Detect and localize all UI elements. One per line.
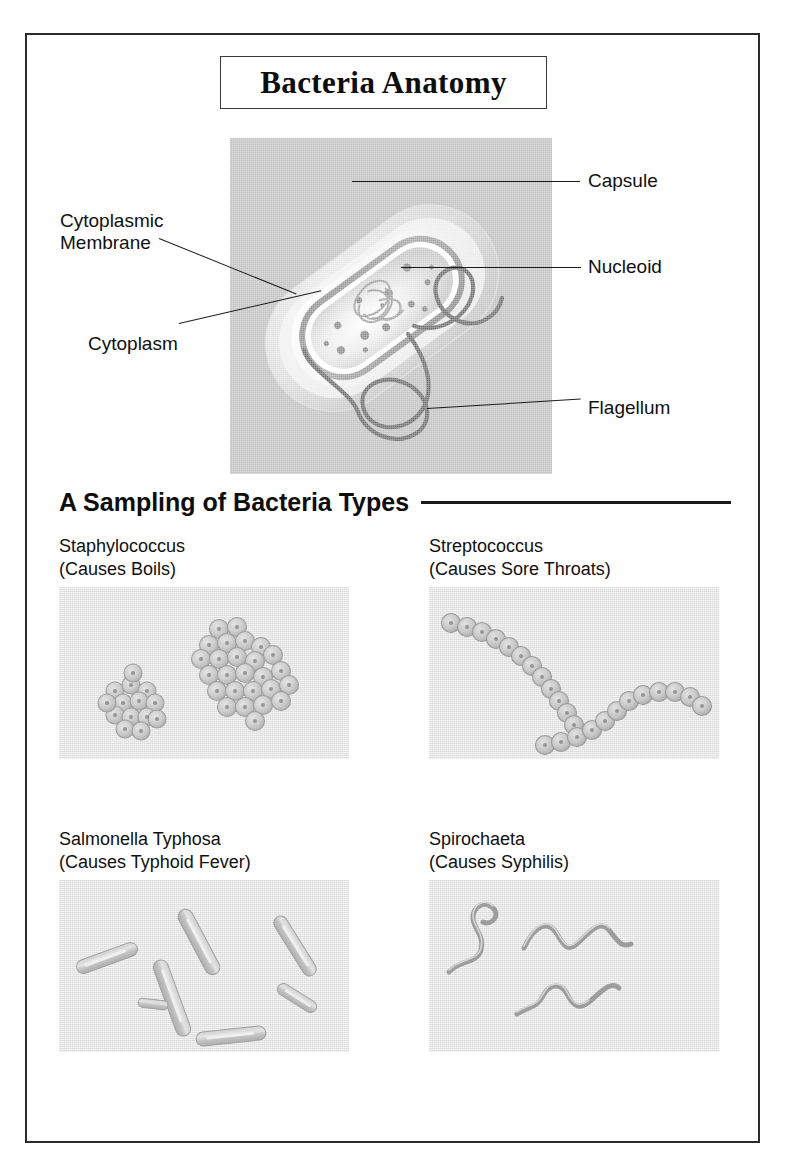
strep-chain-upper — [442, 614, 584, 735]
specimen-staphylococcus: Staphylococcus (Causes Boils) — [59, 535, 349, 759]
label-cytoplasm: Cytoplasm — [88, 333, 178, 355]
section-heading: A Sampling of Bacteria Types — [59, 485, 731, 519]
halftone-texture — [230, 138, 552, 474]
specimen-image-spirochaeta — [429, 880, 719, 1052]
specimen-spirochaeta: Spirochaeta (Causes Syphilis) — [429, 828, 719, 1052]
specimen-streptococcus: Streptococcus (Causes Sore Throats) [dat… — [429, 535, 719, 759]
specimen-caption-spirochaeta: Spirochaeta (Causes Syphilis) — [429, 828, 719, 874]
specimen-caption-streptococcus: Streptococcus (Causes Sore Throats) — [429, 535, 719, 581]
title-box: Bacteria Anatomy — [220, 56, 547, 109]
leader-line-capsule — [352, 181, 580, 182]
specimen-image-staphylococcus: [data-name="staph-cluster-small"] circle… — [59, 587, 349, 759]
specimen-image-salmonella-typhosa — [59, 880, 349, 1052]
salmonella-rods — [75, 907, 319, 1047]
leader-line-nucleoid — [401, 267, 581, 268]
section-title: A Sampling of Bacteria Types — [59, 488, 409, 517]
label-flagellum: Flagellum — [588, 397, 670, 419]
section-rule — [421, 501, 731, 504]
specimen-caption-staphylococcus: Staphylococcus (Causes Boils) — [59, 535, 349, 581]
specimen-caption-salmonella-typhosa: Salmonella Typhosa (Causes Typhoid Fever… — [59, 828, 349, 874]
page-border: Bacteria Anatomy — [25, 33, 760, 1143]
bacteria-anatomy-illustration — [230, 138, 552, 474]
specimen-salmonella-typhosa: Salmonella Typhosa (Causes Typhoid Fever… — [59, 828, 349, 1052]
specimen-image-streptococcus: [data-name="strep-chain-upper"] circle, … — [429, 587, 719, 759]
label-nucleoid: Nucleoid — [588, 256, 662, 278]
label-cytoplasmic-membrane: Cytoplasmic Membrane — [60, 210, 163, 255]
spirochaeta-highlights — [449, 902, 609, 1012]
page-title: Bacteria Anatomy — [260, 65, 507, 101]
label-capsule: Capsule — [588, 170, 658, 192]
